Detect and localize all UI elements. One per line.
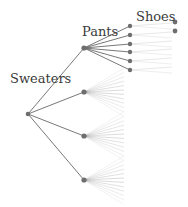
edge-pants-fade xyxy=(84,165,124,180)
node-shoes xyxy=(128,50,132,54)
level-label-pants: Pants xyxy=(82,25,118,38)
node-pants xyxy=(81,177,86,182)
level-label-sweaters: Sweaters xyxy=(10,72,71,85)
edge-pants-fade xyxy=(84,92,124,108)
node-pants xyxy=(81,133,86,138)
edge-pants-fade xyxy=(84,77,124,92)
edge-shoes-fade xyxy=(130,49,172,52)
node-shoes xyxy=(128,42,132,46)
node-pants xyxy=(81,45,86,50)
edge-shoes-fade xyxy=(130,44,172,47)
tree-nodes xyxy=(26,20,178,183)
edge-shoes-fade xyxy=(130,67,172,70)
edge-shoes-fade xyxy=(130,26,172,29)
node-root xyxy=(26,112,31,117)
edge-pants-fade xyxy=(84,121,124,136)
edge-pants-fade xyxy=(84,180,124,200)
level-label-shoes: Shoes xyxy=(136,10,175,23)
edge-shoes-fade xyxy=(130,58,172,61)
node-shoes xyxy=(128,24,132,28)
edge-sweater-to-pants xyxy=(28,114,84,136)
edge-pants-fade xyxy=(84,180,124,196)
node-shoes xyxy=(128,59,132,63)
node-leaf xyxy=(173,29,178,34)
edge-shoes-fade xyxy=(130,61,172,64)
edge-sweater-to-pants xyxy=(28,92,84,114)
edge-pants-fade xyxy=(84,136,124,152)
edge-shoes-fade xyxy=(130,35,172,38)
edge-shoes-fade xyxy=(130,41,172,44)
tree-edges xyxy=(28,23,172,204)
edge-shoes-fade xyxy=(130,70,172,73)
edge-shoes-fade xyxy=(130,32,172,35)
node-pants xyxy=(81,89,86,94)
edge-pants-fade xyxy=(84,156,124,180)
edge-sweater-to-pants xyxy=(28,114,84,180)
edge-shoes-fade xyxy=(130,52,172,55)
edge-pants-fade xyxy=(84,112,124,136)
node-shoes xyxy=(128,33,132,37)
node-shoes xyxy=(128,68,132,72)
edge-pants-fade xyxy=(84,136,124,156)
edge-pants-fade xyxy=(84,68,124,92)
edge-pants-fade xyxy=(84,92,124,112)
